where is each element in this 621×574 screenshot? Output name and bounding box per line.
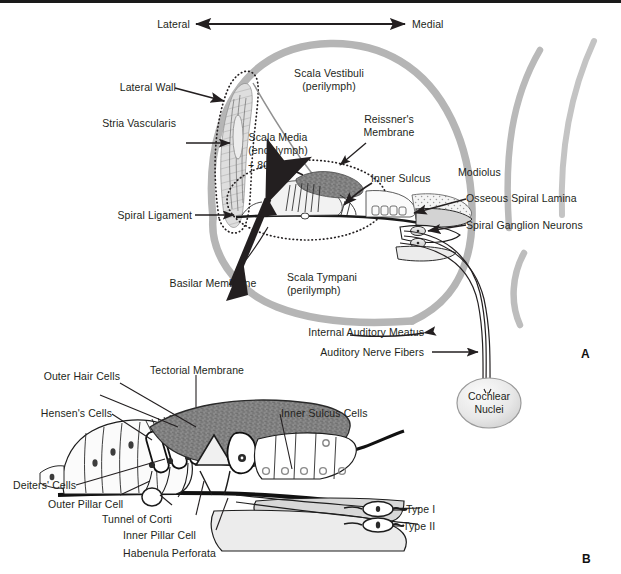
label-lateral-wall: Lateral Wall: [96, 81, 176, 94]
orientation-label-lateral: Lateral: [140, 18, 190, 31]
label-reissners-membrane: Reissner's Membrane: [348, 113, 430, 138]
label-inner-pillar-cell: Inner Pillar Cell: [118, 529, 196, 542]
label-spiral-ganglion-neurons: Spiral Ganglion Neurons: [466, 219, 583, 232]
label-modiolus: Modiolus: [458, 166, 501, 179]
label-outer-hair-cells: Outer Hair Cells: [42, 370, 120, 383]
label-tectorial-membrane: Tectorial Membrane: [145, 364, 249, 377]
label-outer-pillar-cell: Outer Pillar Cell: [48, 498, 120, 511]
label-type-i: Type I: [406, 503, 435, 516]
label-tunnel-of-corti: Tunnel of Corti: [90, 513, 172, 526]
label-deiters-cells: Deiters' Cells: [3, 479, 76, 492]
label-scala-media: Scala Media (endolymph): [230, 131, 326, 156]
label-internal-auditory-meatus: Internal Auditory Meatus: [276, 326, 424, 339]
label-spiral-ligament: Spiral Ligament: [104, 209, 192, 222]
label-hensens-cells: Hensen's Cells: [22, 407, 112, 420]
label-inner-sulcus: Inner Sulcus: [371, 172, 431, 185]
label-scala-tympani: Scala Tympani (perilymph): [287, 271, 357, 296]
label-habenula-perforata: Habenula Perforata: [112, 547, 216, 560]
cochlea-figure: Lateral Medial Lateral Wall Stria Vascul…: [0, 0, 621, 574]
label-stria-vascularis: Stria Vascularis: [84, 117, 176, 130]
modiolus-bone: [508, 41, 594, 325]
panel-letter-b: B: [582, 552, 591, 566]
panel-letter-a: A: [581, 347, 590, 361]
orientation-label-medial: Medial: [412, 18, 444, 31]
label-basilar-membrane: Basilar Membrane: [158, 277, 268, 290]
label-scala-vestibuli: Scala Vestibuli (perilymph): [278, 67, 380, 92]
label-osseous-spiral-lamina: Osseous Spiral Lamina: [466, 192, 577, 205]
label-inner-sulcus-cells: Inner Sulcus Cells: [281, 407, 368, 420]
label-endocochlear-potential: + 80 mV: [232, 159, 304, 172]
label-cochlear-nuclei: Cochlear Nuclei: [459, 390, 519, 415]
label-type-ii: Type II: [403, 520, 435, 533]
label-auditory-nerve-fibers: Auditory Nerve Fibers: [306, 346, 424, 359]
